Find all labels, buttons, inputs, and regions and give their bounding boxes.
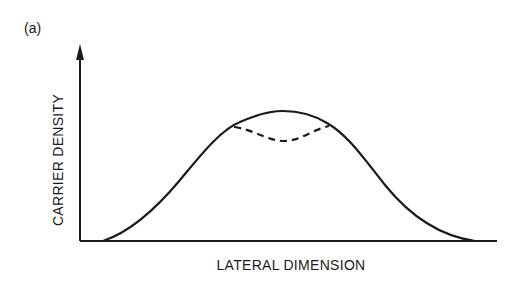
carrier-density-figure: (a) CARRIER DENSITY LATERAL DIMENSION (0, 0, 532, 286)
carrier-density-dip-curve (234, 126, 329, 141)
y-axis-label: CARRIER DENSITY (50, 94, 66, 226)
x-axis-label: LATERAL DIMENSION (216, 257, 365, 273)
carrier-density-curve (103, 111, 475, 241)
y-axis-arrow-icon (76, 44, 84, 60)
plot-area (0, 0, 532, 286)
